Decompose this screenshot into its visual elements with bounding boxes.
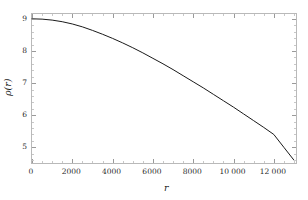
y-tick-minor <box>32 64 34 65</box>
x-tick-minor <box>183 161 184 163</box>
x-axis-title: r <box>164 182 169 193</box>
x-tick-minor <box>294 161 295 163</box>
x-tick-minor-top <box>294 14 295 16</box>
y-tick-minor-right <box>294 160 296 161</box>
y-tick-minor-right <box>294 102 296 103</box>
x-tick-minor <box>173 161 174 163</box>
y-tick-minor <box>32 160 34 161</box>
y-tick-minor-right <box>294 64 296 65</box>
y-tick-major-right <box>292 19 296 20</box>
x-tick-minor-top <box>284 14 285 16</box>
x-tick-minor-top <box>163 14 164 16</box>
y-tick-minor <box>32 128 34 129</box>
y-tick-minor-right <box>294 32 296 33</box>
y-tick-minor <box>32 70 34 71</box>
x-tick-major-top <box>153 14 154 18</box>
x-tick-minor <box>103 161 104 163</box>
y-tick-major-right <box>292 51 296 52</box>
x-tick-major-top <box>234 14 235 18</box>
y-tick-minor-right <box>294 128 296 129</box>
y-tick-label: 7 <box>22 78 27 87</box>
density-curve <box>32 19 294 160</box>
x-tick-minor <box>223 161 224 163</box>
x-tick-major-top <box>32 14 33 18</box>
x-tick-major <box>153 159 154 163</box>
x-tick-label: 0 <box>29 167 34 176</box>
y-tick-minor <box>32 96 34 97</box>
x-tick-major <box>234 159 235 163</box>
y-tick-minor <box>32 25 34 26</box>
x-tick-minor-top <box>183 14 184 16</box>
x-tick-minor <box>52 161 53 163</box>
y-tick-minor <box>32 141 34 142</box>
y-tick-minor-right <box>294 96 296 97</box>
y-tick-minor-right <box>294 45 296 46</box>
y-tick-minor-right <box>294 109 296 110</box>
y-tick-major <box>32 19 36 20</box>
x-tick-minor-top <box>223 14 224 16</box>
x-tick-major <box>274 159 275 163</box>
x-tick-minor-top <box>42 14 43 16</box>
x-tick-minor-top <box>92 14 93 16</box>
x-tick-minor-top <box>143 14 144 16</box>
y-tick-minor <box>32 32 34 33</box>
plot-curve-layer <box>32 14 298 165</box>
y-tick-major <box>32 51 36 52</box>
x-tick-minor <box>133 161 134 163</box>
x-tick-label: 8000 <box>183 167 202 176</box>
y-tick-minor <box>32 45 34 46</box>
x-tick-minor-top <box>173 14 174 16</box>
y-tick-minor-right <box>294 90 296 91</box>
x-tick-minor-top <box>52 14 53 16</box>
y-tick-major <box>32 83 36 84</box>
y-tick-major-right <box>292 83 296 84</box>
y-tick-minor <box>32 38 34 39</box>
y-tick-minor <box>32 122 34 123</box>
x-tick-major-top <box>274 14 275 18</box>
y-tick-major-right <box>292 115 296 116</box>
x-tick-minor-top <box>133 14 134 16</box>
x-tick-label: 12 000 <box>260 167 286 176</box>
x-tick-major-top <box>113 14 114 18</box>
x-tick-minor-top <box>62 14 63 16</box>
x-tick-major <box>193 159 194 163</box>
y-tick-minor-right <box>294 38 296 39</box>
x-tick-minor-top <box>123 14 124 16</box>
y-tick-major <box>32 147 36 148</box>
x-tick-minor <box>244 161 245 163</box>
x-tick-minor-top <box>244 14 245 16</box>
y-tick-major <box>32 115 36 116</box>
x-tick-minor <box>62 161 63 163</box>
x-tick-major-top <box>193 14 194 18</box>
y-tick-minor-right <box>294 134 296 135</box>
x-tick-minor <box>264 161 265 163</box>
y-tick-minor-right <box>294 77 296 78</box>
y-tick-minor <box>32 57 34 58</box>
y-tick-minor <box>32 109 34 110</box>
x-tick-minor-top <box>203 14 204 16</box>
y-axis-title: ρ(r) <box>2 78 13 96</box>
x-tick-minor <box>203 161 204 163</box>
y-tick-minor <box>32 154 34 155</box>
x-tick-major <box>113 159 114 163</box>
y-tick-minor-right <box>294 122 296 123</box>
y-tick-minor <box>32 77 34 78</box>
y-tick-minor <box>32 134 34 135</box>
y-tick-minor-right <box>294 70 296 71</box>
x-tick-minor <box>163 161 164 163</box>
y-tick-label: 5 <box>22 142 27 151</box>
y-tick-minor <box>32 90 34 91</box>
x-tick-minor <box>143 161 144 163</box>
x-tick-minor <box>213 161 214 163</box>
x-tick-minor-top <box>254 14 255 16</box>
x-tick-major <box>72 159 73 163</box>
x-tick-minor-top <box>264 14 265 16</box>
x-tick-label: 10 000 <box>219 167 245 176</box>
x-tick-label: 6000 <box>142 167 161 176</box>
x-tick-minor-top <box>103 14 104 16</box>
x-tick-major-top <box>72 14 73 18</box>
x-tick-label: 4000 <box>102 167 121 176</box>
x-tick-minor <box>92 161 93 163</box>
x-tick-minor <box>254 161 255 163</box>
x-tick-minor <box>42 161 43 163</box>
